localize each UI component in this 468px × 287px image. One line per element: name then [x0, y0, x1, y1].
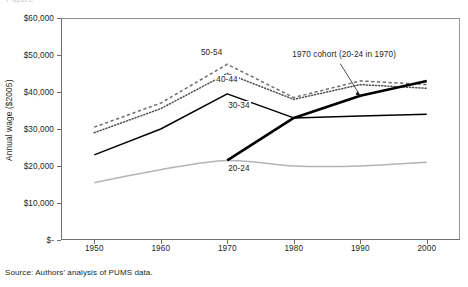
x-axis-tick-label: 1990 — [351, 244, 370, 253]
y-axis-tick-label: $50,000 — [24, 51, 54, 60]
annotation-leader-line — [340, 64, 360, 96]
series-line-20-24 — [94, 160, 427, 182]
chart-plot-area: $-$10,000$20,000$30,000$40,000$50,000$60… — [61, 18, 460, 240]
y-axis-title: Annual wage ($2005) — [2, 50, 16, 190]
figure-root: Figure Annual wage ($2005) $-$10,000$20,… — [0, 0, 468, 287]
series-label-40-44: 40-44 — [215, 75, 238, 84]
series-line-1970-cohort — [227, 81, 427, 161]
y-axis-tick-label: $20,000 — [24, 162, 54, 171]
source-note: Source: Authors' analysis of PUMS data. — [5, 268, 153, 277]
x-axis-tick-label: 1980 — [284, 244, 303, 253]
y-axis-tick-label: $10,000 — [24, 199, 54, 208]
x-axis-tick-label: 2000 — [417, 244, 436, 253]
y-axis-tick — [57, 240, 61, 241]
series-line-30-34 — [94, 94, 427, 155]
y-axis-tick-label: $60,000 — [24, 14, 54, 23]
annotation-cohort-label: 1970 cohort (20-24 in 1970) — [292, 50, 396, 59]
y-axis-tick-label: $30,000 — [24, 125, 54, 134]
figure-title-fragment: Figure — [6, 0, 34, 3]
y-axis-tick-label: $40,000 — [24, 88, 54, 97]
series-label-50-54: 50-54 — [200, 48, 223, 57]
y-axis-tick-label: $- — [47, 236, 54, 245]
series-line-40-44 — [94, 74, 427, 133]
series-label-20-24: 20-24 — [227, 164, 250, 173]
series-line-50-54 — [94, 64, 427, 127]
series-layer — [61, 18, 460, 240]
series-label-30-34: 30-34 — [227, 101, 250, 110]
x-axis-tick-label: 1960 — [151, 244, 170, 253]
x-axis-tick-label: 1950 — [85, 244, 104, 253]
x-axis-tick-label: 1970 — [218, 244, 237, 253]
